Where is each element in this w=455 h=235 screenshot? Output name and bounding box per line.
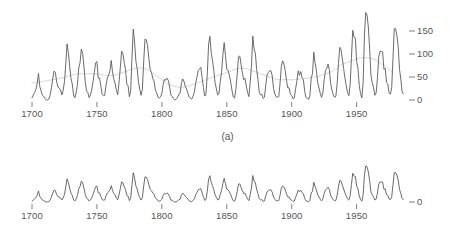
x-tick-label: 1850 bbox=[216, 211, 238, 221]
x-tick-label: 1750 bbox=[86, 109, 108, 119]
panel-a-caption: (a) bbox=[0, 131, 455, 142]
y-tick-label: 0 bbox=[417, 95, 422, 105]
y-tick-label: 150 bbox=[417, 26, 433, 36]
x-tick-label: 1800 bbox=[151, 211, 173, 221]
x-tick-label: 1900 bbox=[281, 211, 303, 221]
y-tick-label: 0 bbox=[417, 197, 422, 207]
panel-b-plot bbox=[0, 150, 455, 235]
chart-panel-b: 170017501800185019001950 0 (b) bbox=[0, 150, 455, 235]
data-series-line bbox=[32, 166, 403, 202]
data-series-line bbox=[32, 13, 403, 100]
x-tick-label: 1700 bbox=[21, 211, 43, 221]
x-tick-label: 1950 bbox=[346, 211, 368, 221]
x-tick-label: 1750 bbox=[86, 211, 108, 221]
x-tick-label: 1850 bbox=[216, 109, 238, 119]
y-tick-label: 100 bbox=[417, 49, 433, 59]
x-tick-label: 1700 bbox=[21, 109, 43, 119]
x-tick-label: 1950 bbox=[346, 109, 368, 119]
sunspot-figure: 170017501800185019001950 050100150 (a) 1… bbox=[0, 0, 455, 235]
panel-a-plot bbox=[0, 0, 455, 150]
x-tick-label: 1800 bbox=[151, 109, 173, 119]
chart-panel-a: 170017501800185019001950 050100150 (a) bbox=[0, 0, 455, 150]
x-tick-label: 1900 bbox=[281, 109, 303, 119]
y-tick-label: 50 bbox=[417, 72, 428, 82]
